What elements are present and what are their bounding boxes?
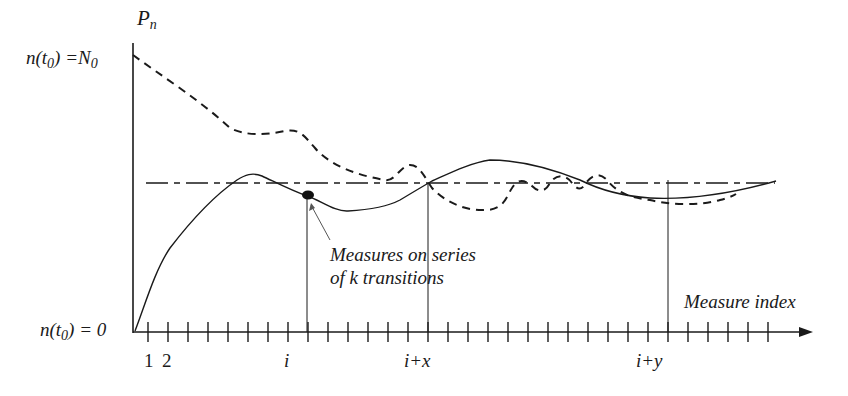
tick-label-2: 2 — [162, 351, 172, 370]
tick-label-i-plus-y: i+y — [636, 351, 663, 370]
annotation-leader — [311, 205, 330, 240]
x-axis-label: Measure index — [684, 292, 796, 311]
y-axis-label: Pn — [137, 8, 157, 32]
dashed-curve — [133, 55, 736, 210]
x-axis-arrow-icon — [799, 327, 813, 337]
diagram-canvas — [0, 0, 848, 396]
y-bottom-label: n(t0) = 0 — [40, 320, 106, 343]
annotation-text-line2: of k transitions — [330, 268, 444, 287]
tick-label-1: 1 — [144, 351, 154, 370]
tick-label-i-plus-x: i+x — [404, 351, 431, 370]
y-top-label: n(t0) =N0 — [26, 48, 98, 71]
annotation-text-line1: Measures on series — [330, 245, 476, 264]
tick-label-i: i — [284, 351, 289, 370]
measure-point — [302, 191, 314, 200]
